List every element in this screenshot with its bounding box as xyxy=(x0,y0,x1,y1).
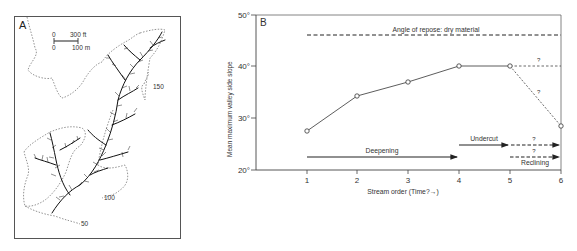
x-ticks xyxy=(307,170,561,174)
point-2 xyxy=(355,94,359,98)
y-tick-50: 50° xyxy=(238,11,250,20)
x-tick-4: 4 xyxy=(457,176,462,185)
panel-a-drawing: 0 300 ft 0 100 m 150 100 50 xyxy=(24,17,165,227)
reclining-arrow: ? Reclining xyxy=(510,148,559,167)
undercut-label: Undercut xyxy=(470,135,498,142)
contour-lines xyxy=(24,17,165,224)
x-tick-labels: 1 2 3 4 5 6 xyxy=(305,176,564,185)
scale-bottom-right: 100 m xyxy=(72,44,90,51)
projection-decline-question: ? xyxy=(537,89,541,95)
contour-label-100: 100 xyxy=(104,194,115,201)
x-tick-1: 1 xyxy=(305,176,310,185)
deepening-label: Deepening xyxy=(366,147,399,155)
projection-flat-question: ? xyxy=(537,57,541,63)
x-tick-3: 3 xyxy=(406,176,411,185)
y-tick-40: 40° xyxy=(238,62,250,71)
reclining-question: ? xyxy=(532,148,536,154)
scale-top-left: 0 xyxy=(52,31,56,38)
projection-decline-line xyxy=(510,66,561,126)
x-tick-6: 6 xyxy=(559,176,564,185)
undercut-uncertain-arrow: ? xyxy=(511,136,559,145)
x-tick-2: 2 xyxy=(355,176,360,185)
undercut-arrow: Undercut xyxy=(459,135,508,145)
reclining-label: Reclining xyxy=(521,159,549,167)
stream-tributaries xyxy=(34,37,162,200)
point-1 xyxy=(305,129,309,133)
y-tick-labels: 50° 40° 30° 20° xyxy=(238,11,250,175)
scale-top-right: 300 ft xyxy=(70,31,86,38)
figure-canvas: 0 300 ft 0 100 m 150 100 50 xyxy=(0,0,577,251)
x-axis-label: Stream order (Time?→) xyxy=(367,188,439,196)
point-5 xyxy=(508,64,512,68)
point-3 xyxy=(406,80,410,84)
y-ticks xyxy=(251,15,256,170)
scale-bottom-left: 0 xyxy=(52,44,56,51)
angle-of-repose-label: Angle of repose: dry material xyxy=(393,26,480,34)
panel-b-chart: B 50° 40° 30° 20° Mean maximum valley si… xyxy=(226,11,564,196)
contour-label-150: 150 xyxy=(153,83,164,90)
y-tick-30: 30° xyxy=(238,114,250,123)
point-6 xyxy=(559,124,563,128)
undercut-question: ? xyxy=(532,136,536,142)
point-4 xyxy=(457,64,461,68)
panel-b-label: B xyxy=(260,17,267,28)
y-axis-label: Mean maximum valley side slope xyxy=(226,61,234,157)
scale-bar: 0 300 ft 0 100 m xyxy=(52,31,90,51)
contour-label-50: 50 xyxy=(81,220,89,227)
y-tick-20: 20° xyxy=(238,166,250,175)
x-tick-5: 5 xyxy=(508,176,513,185)
stream-network xyxy=(35,32,165,213)
deepening-arrow: Deepening xyxy=(307,147,457,157)
series-slope-line xyxy=(307,66,510,131)
